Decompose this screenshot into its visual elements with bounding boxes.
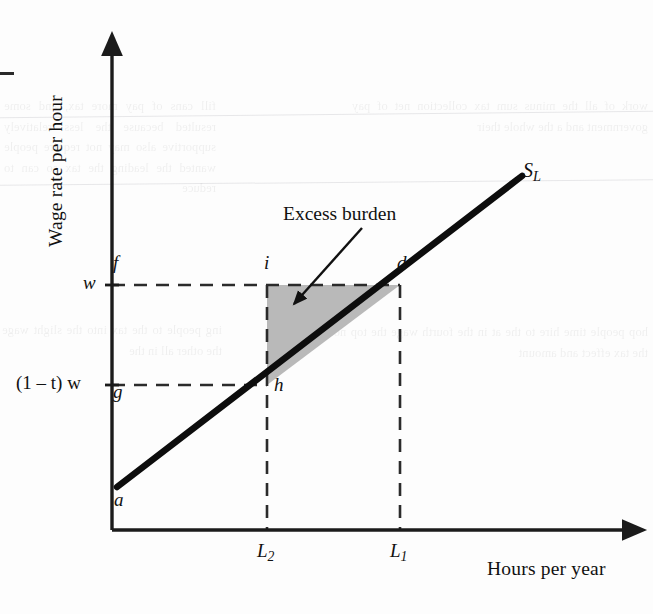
supply-curve-label: SL: [523, 159, 541, 185]
x-tick-L1-letter: L: [390, 540, 401, 561]
supply-curve-letter: S: [523, 159, 533, 181]
excess-burden-annotation-text: Excess burden: [283, 203, 396, 225]
excess-burden-shaded-triangle: [267, 285, 400, 385]
point-label-h: h: [274, 374, 284, 396]
x-tick-label-L2: L2: [257, 540, 274, 565]
x-tick-L1-subscript: 1: [401, 549, 408, 564]
supply-curve-subscript: L: [533, 168, 541, 184]
x-axis-title: Hours per year: [487, 558, 606, 580]
net-wage-prefix: (1 – t): [16, 372, 62, 393]
point-label-d: d: [397, 252, 407, 274]
x-tick-L2-subscript: 2: [268, 549, 275, 564]
figure-container: fill cans of pay more tax, and some resu…: [0, 0, 653, 614]
y-axis-title: Wage rate per hour: [45, 66, 67, 276]
point-label-i: i: [264, 252, 269, 274]
chart-canvas: [0, 0, 653, 614]
x-tick-label-L1: L1: [390, 540, 407, 565]
net-wage-symbol: w: [67, 372, 81, 393]
x-tick-L2-letter: L: [257, 540, 268, 561]
y-tick-label-w: w: [83, 272, 96, 294]
y-tick-label-net-wage: (1 – t) w: [16, 372, 81, 394]
point-label-g: g: [113, 381, 123, 403]
point-label-f: f: [113, 252, 118, 274]
point-label-a: a: [114, 489, 124, 511]
